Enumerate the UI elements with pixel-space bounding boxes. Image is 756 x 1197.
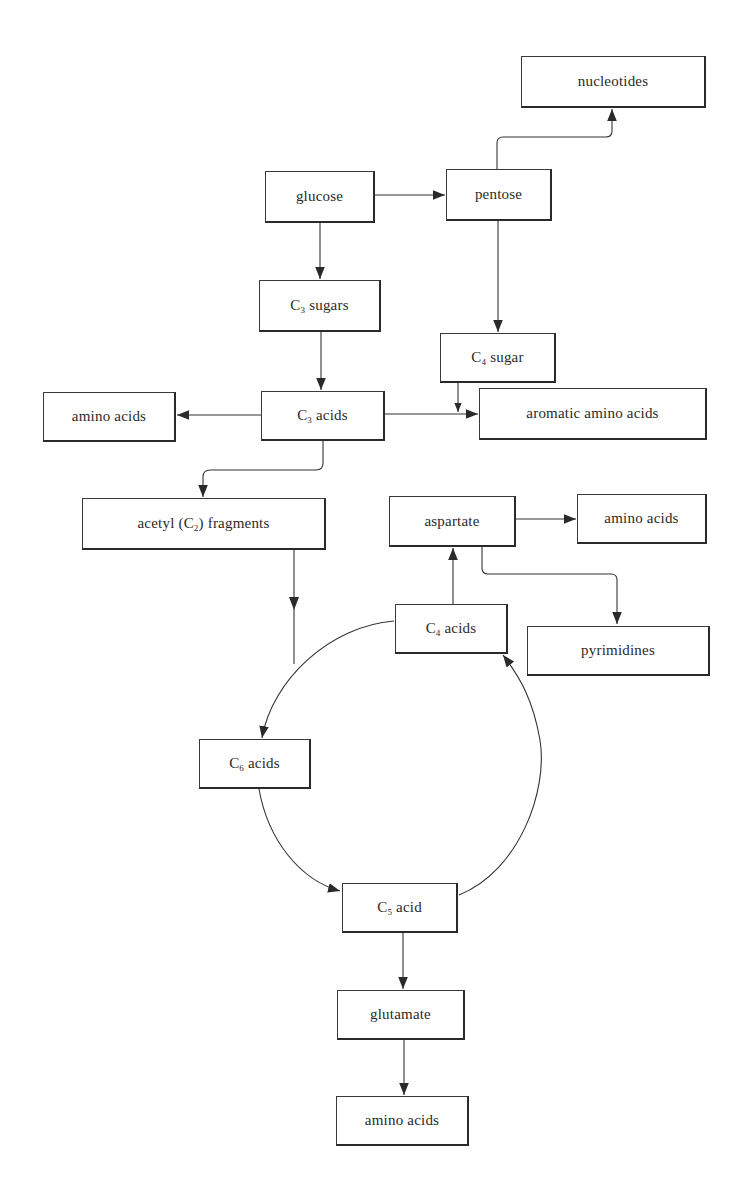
- edge-c6acids-c5acid: [259, 789, 340, 891]
- node-nucleotides: nucleotides: [521, 56, 706, 108]
- node-label: amino acids: [72, 408, 146, 425]
- node-label: amino acids: [604, 510, 678, 527]
- node-amino-acids-left: amino acids: [43, 392, 176, 442]
- node-c3-sugars: C3 sugars: [259, 280, 381, 332]
- node-label: glutamate: [370, 1006, 431, 1023]
- node-label: C3 acids: [297, 407, 348, 425]
- node-pyrimidines: pyrimidines: [527, 626, 710, 676]
- edge-c4acids-c6acids: [262, 621, 394, 738]
- node-c4-acids: C4 acids: [395, 604, 508, 654]
- node-label: pentose: [475, 186, 522, 203]
- node-label: aspartate: [424, 513, 479, 530]
- node-c5-acid: C5 acid: [342, 883, 458, 933]
- edge-c5acid-c4acids: [459, 655, 541, 895]
- node-label: pyrimidines: [581, 642, 655, 659]
- node-label: amino acids: [365, 1112, 439, 1129]
- node-amino-acids-bottom: amino acids: [336, 1096, 469, 1146]
- node-c4-sugar: C4 sugar: [440, 333, 556, 383]
- node-c6-acids: C6 acids: [199, 739, 311, 789]
- node-glucose: glucose: [265, 171, 375, 223]
- node-amino-acids-right: amino acids: [577, 494, 707, 544]
- node-label: C4 sugar: [471, 349, 523, 367]
- edge-c3acids-acetyl: [203, 441, 323, 497]
- node-c3-acids: C3 acids: [261, 391, 385, 441]
- node-aromatic-amino-acids: aromatic amino acids: [479, 388, 707, 440]
- node-label: acetyl (C2) fragments: [138, 515, 270, 533]
- node-label: nucleotides: [578, 73, 649, 90]
- node-label: C3 sugars: [290, 297, 348, 315]
- edge-pentose-nucleotides: [497, 109, 612, 169]
- node-acetyl-fragments: acetyl (C2) fragments: [82, 498, 326, 550]
- node-label: aromatic amino acids: [526, 405, 658, 422]
- node-pentose: pentose: [446, 169, 552, 221]
- node-aspartate: aspartate: [389, 496, 516, 547]
- node-glutamate: glutamate: [337, 990, 465, 1040]
- node-label: C4 acids: [426, 620, 477, 638]
- node-label: C5 acid: [377, 899, 422, 917]
- node-label: glucose: [296, 188, 343, 205]
- node-label: C6 acids: [229, 755, 280, 773]
